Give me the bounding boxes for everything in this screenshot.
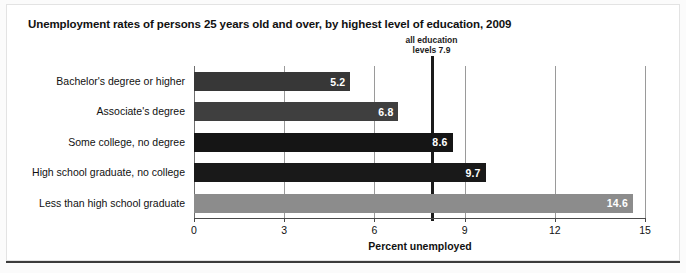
category-label: Associate's degree	[97, 102, 185, 121]
bar: 5.2	[194, 72, 350, 91]
plot-area: Bachelor's degree or higher5.2Associate'…	[194, 66, 645, 218]
gridline-15	[645, 66, 646, 218]
bar-value-label: 9.7	[465, 167, 480, 179]
tick-label-6: 6	[371, 224, 377, 236]
bar: 8.6	[194, 133, 453, 152]
bar: 6.8	[194, 102, 398, 121]
reference-line-annotation: all education levels 7.9	[406, 36, 458, 55]
bar-row: Associate's degree6.8	[194, 96, 645, 126]
chart-title: Unemployment rates of persons 25 years o…	[28, 18, 511, 30]
tick-label-15: 15	[639, 224, 651, 236]
tick-mark-0	[194, 218, 195, 222]
tick-mark-15	[645, 218, 646, 222]
x-axis-title: Percent unemployed	[194, 240, 646, 252]
bar: 14.6	[194, 194, 633, 213]
bar-row: Some college, no degree8.6	[194, 127, 645, 157]
tick-label-0: 0	[191, 224, 197, 236]
category-label: High school graduate, no college	[32, 163, 185, 182]
category-label: Bachelor's degree or higher	[56, 72, 185, 91]
bar-row: High school graduate, no college9.7	[194, 157, 645, 187]
chart-figure: Unemployment rates of persons 25 years o…	[0, 0, 686, 273]
bar-value-label: 14.6	[607, 197, 628, 209]
bar-value-label: 5.2	[330, 76, 345, 88]
tick-mark-6	[374, 218, 375, 222]
bar-row: Less than high school graduate14.6	[194, 188, 645, 218]
tick-label-3: 3	[281, 224, 287, 236]
tick-mark-3	[284, 218, 285, 222]
reference-line-annotation-line2: levels 7.9	[406, 46, 458, 56]
bar: 9.7	[194, 163, 486, 182]
bar-value-label: 8.6	[432, 136, 447, 148]
tick-mark-12	[555, 218, 556, 222]
tick-label-12: 12	[549, 224, 561, 236]
figure-bottom-rule	[6, 261, 680, 263]
bar-value-label: 6.8	[378, 106, 393, 118]
category-label: Less than high school graduate	[39, 194, 185, 213]
category-label: Some college, no degree	[68, 133, 185, 152]
tick-mark-9	[465, 218, 466, 222]
bar-row: Bachelor's degree or higher5.2	[194, 66, 645, 96]
tick-label-9: 9	[462, 224, 468, 236]
x-axis-line	[194, 218, 646, 219]
